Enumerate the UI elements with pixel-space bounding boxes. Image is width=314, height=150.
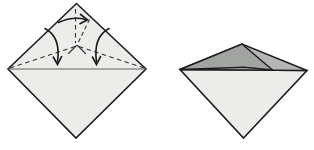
- paper-outline: [8, 4, 146, 139]
- origami-step-crease-diagram: [0, 0, 157, 150]
- paper-bottom-layer: [180, 70, 307, 139]
- diamond-with-crease-pattern: [0, 0, 157, 150]
- origami-step-folded-result-diagram: [157, 0, 314, 150]
- folded-result-with-overlapping-flaps: [157, 0, 314, 150]
- origami-instruction-sheet: [0, 0, 314, 150]
